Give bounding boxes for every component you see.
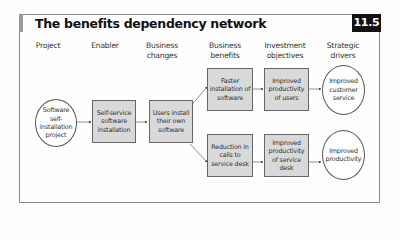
node-business-change: Users install their own software — [149, 100, 193, 143]
node-driver-productivity: Improved productivity — [322, 130, 365, 180]
node-project: Software self-installation project — [35, 99, 77, 147]
node-benefit-reduction-calls: Reduction in calls to service desk — [207, 134, 253, 177]
node-enabler: Self-service software installation — [92, 100, 136, 143]
node-benefit-faster-installation: Faster installation of software — [207, 68, 253, 111]
node-objective-productivity-users: Improved productivity of users — [264, 68, 309, 111]
node-driver-customer-service: Improved customer service — [322, 65, 365, 115]
node-objective-productivity-service-desk: Improved productivity of service desk — [264, 134, 309, 177]
